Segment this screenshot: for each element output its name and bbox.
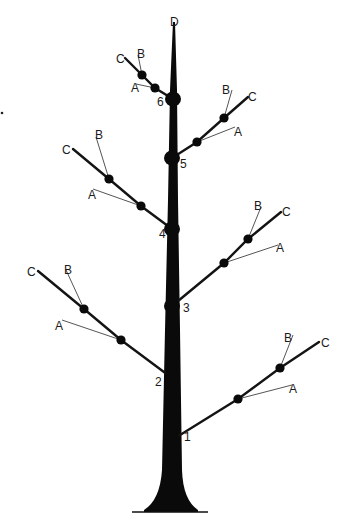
stray-mark	[1, 112, 4, 115]
node-number-3: 3	[183, 301, 190, 315]
trunk-node-4	[164, 222, 180, 237]
bud-dot	[79, 304, 88, 313]
bud-dot	[275, 363, 284, 372]
node-number-6: 6	[157, 95, 164, 109]
bud-dot	[192, 137, 201, 146]
branch-6-label-c: C	[116, 52, 125, 66]
branch-3-label-b: B	[254, 199, 262, 213]
branch-2-label-b: B	[64, 263, 72, 277]
trunk-node-3	[164, 299, 180, 314]
trunk-node-1	[164, 433, 180, 448]
bud-dot	[219, 258, 228, 267]
branch-1-label-a: A	[289, 382, 297, 396]
branch-6-label-b: B	[137, 47, 145, 61]
branch-5-label-a: A	[234, 125, 242, 139]
branch-3-label-c: C	[282, 205, 291, 219]
branch-3-label-a: A	[276, 241, 284, 255]
bud-dot	[116, 335, 125, 344]
tree-branching-diagram: DABCABCABCABCABCABC123456	[0, 0, 346, 532]
branch-2-label-a: A	[55, 319, 63, 333]
bud-dot	[243, 234, 252, 243]
branch-4-label-b: B	[95, 128, 103, 142]
branch-6-label-a: A	[131, 81, 139, 95]
branch-3	[172, 207, 281, 306]
branch-5	[172, 90, 248, 158]
trunk-node-5	[164, 151, 180, 166]
bud-dot	[104, 174, 113, 183]
twig-a	[62, 320, 121, 340]
node-number-2: 2	[155, 375, 162, 389]
branch-c-line	[172, 212, 281, 306]
trunk-node-6	[165, 92, 181, 107]
trunk-label-d: D	[170, 15, 179, 29]
bud-dot	[150, 83, 159, 92]
branch-4-label-c: C	[62, 143, 71, 157]
branch-1-label-b: B	[284, 331, 292, 345]
node-number-1: 1	[184, 430, 191, 444]
bud-dot	[219, 113, 228, 122]
bud-dot	[137, 70, 146, 79]
branch-4	[73, 137, 172, 229]
bud-dot	[233, 394, 242, 403]
branch-1-label-c: C	[321, 336, 330, 350]
branch-5-label-b: B	[222, 83, 230, 97]
node-number-4: 4	[159, 227, 166, 241]
node-number-5: 5	[180, 157, 187, 171]
twig-a	[197, 127, 235, 142]
bud-dot	[136, 201, 145, 210]
branch-4-label-a: A	[88, 188, 96, 202]
branch-5-label-c: C	[248, 90, 257, 104]
branch-2-label-c: C	[27, 265, 36, 279]
trunk-node-2	[164, 371, 180, 386]
twig-a	[93, 189, 141, 206]
